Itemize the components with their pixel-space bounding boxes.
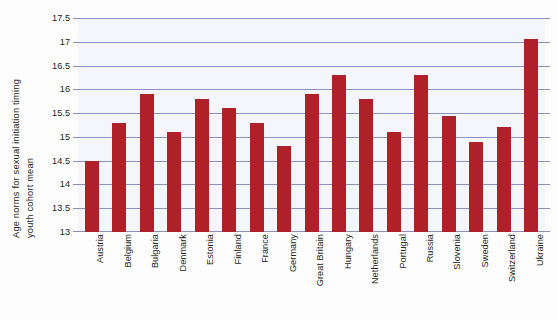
x-axis-tick-label: Russia (425, 234, 435, 262)
bar (332, 75, 346, 232)
y-axis-tick-mark (545, 231, 550, 232)
x-axis-tick-label: Belgium (123, 234, 133, 268)
bar (250, 123, 264, 232)
x-axis-tick-label: Ukraine (535, 234, 545, 266)
x-axis-tick-label: Austria (95, 234, 105, 263)
y-axis-tick-mark (545, 18, 550, 19)
y-axis-tick-mark (545, 66, 550, 67)
y-axis-tick-label: 14 (60, 179, 70, 189)
x-axis-tick-label: Hungary (343, 234, 353, 269)
y-axis-title-line-2: youth cohort mean (25, 158, 35, 238)
bar (85, 161, 99, 232)
bar (112, 123, 126, 232)
bar (497, 127, 511, 232)
bar (277, 146, 291, 232)
x-axis-tick-label: Estonia (205, 234, 215, 265)
x-axis-tick-label: Netherlands (370, 234, 380, 284)
bar (414, 75, 428, 232)
bar (195, 99, 209, 232)
y-axis-tick-mark (545, 184, 550, 185)
bar-chart: Age norms for sexual initiation timing y… (0, 0, 557, 320)
bar (305, 94, 319, 232)
x-axis-labels: AustriaBelgiumBulgariaDenmarkEstoniaFinl… (78, 234, 545, 318)
x-axis-tick-label: Bulgaria (150, 234, 160, 268)
bar (140, 94, 154, 232)
x-axis-tick-label: Denmark (178, 234, 188, 272)
y-axis-tick-mark (545, 137, 550, 138)
y-axis-tick-mark (545, 89, 550, 90)
bars-group (78, 18, 545, 232)
x-axis-tick-label: Great Britain (315, 234, 325, 286)
y-axis-tick-label: 13.5 (52, 203, 70, 213)
x-axis-tick-label: Finland (233, 234, 243, 264)
y-axis-tick-label: 13 (60, 227, 70, 237)
x-axis-tick-label: Sweden (480, 234, 490, 267)
bar (442, 116, 456, 233)
plot-area: 17.51716.51615.51514.51413.513 (78, 18, 545, 232)
y-axis-title-line-1: Age norms for sexual initiation timing (11, 79, 21, 238)
bar (524, 39, 538, 232)
bar (387, 132, 401, 232)
bar (469, 142, 483, 232)
y-axis-tick-label: 14.5 (52, 156, 70, 166)
y-axis-tick-label: 15 (60, 132, 70, 142)
bar (359, 99, 373, 232)
x-axis-tick-label: France (260, 234, 270, 263)
y-axis-tick-label: 15.5 (52, 108, 70, 118)
y-axis-tick-label: 17.5 (52, 13, 70, 23)
y-axis-tick-mark (545, 42, 550, 43)
x-axis-tick-label: Portugal (398, 234, 408, 269)
y-axis-tick-mark (545, 161, 550, 162)
x-axis-tick-label: Germany (288, 234, 298, 272)
y-axis-tick-label: 16 (60, 84, 70, 94)
x-axis-tick-label: Slovenia (452, 234, 462, 270)
x-axis-tick-label: Switzerland (507, 234, 517, 282)
y-axis-tick-label: 16.5 (52, 61, 70, 71)
bar (222, 108, 236, 232)
bar (167, 132, 181, 232)
y-axis-tick-mark (545, 208, 550, 209)
y-axis-tick-label: 17 (60, 37, 70, 47)
y-axis-tick-mark (545, 113, 550, 114)
